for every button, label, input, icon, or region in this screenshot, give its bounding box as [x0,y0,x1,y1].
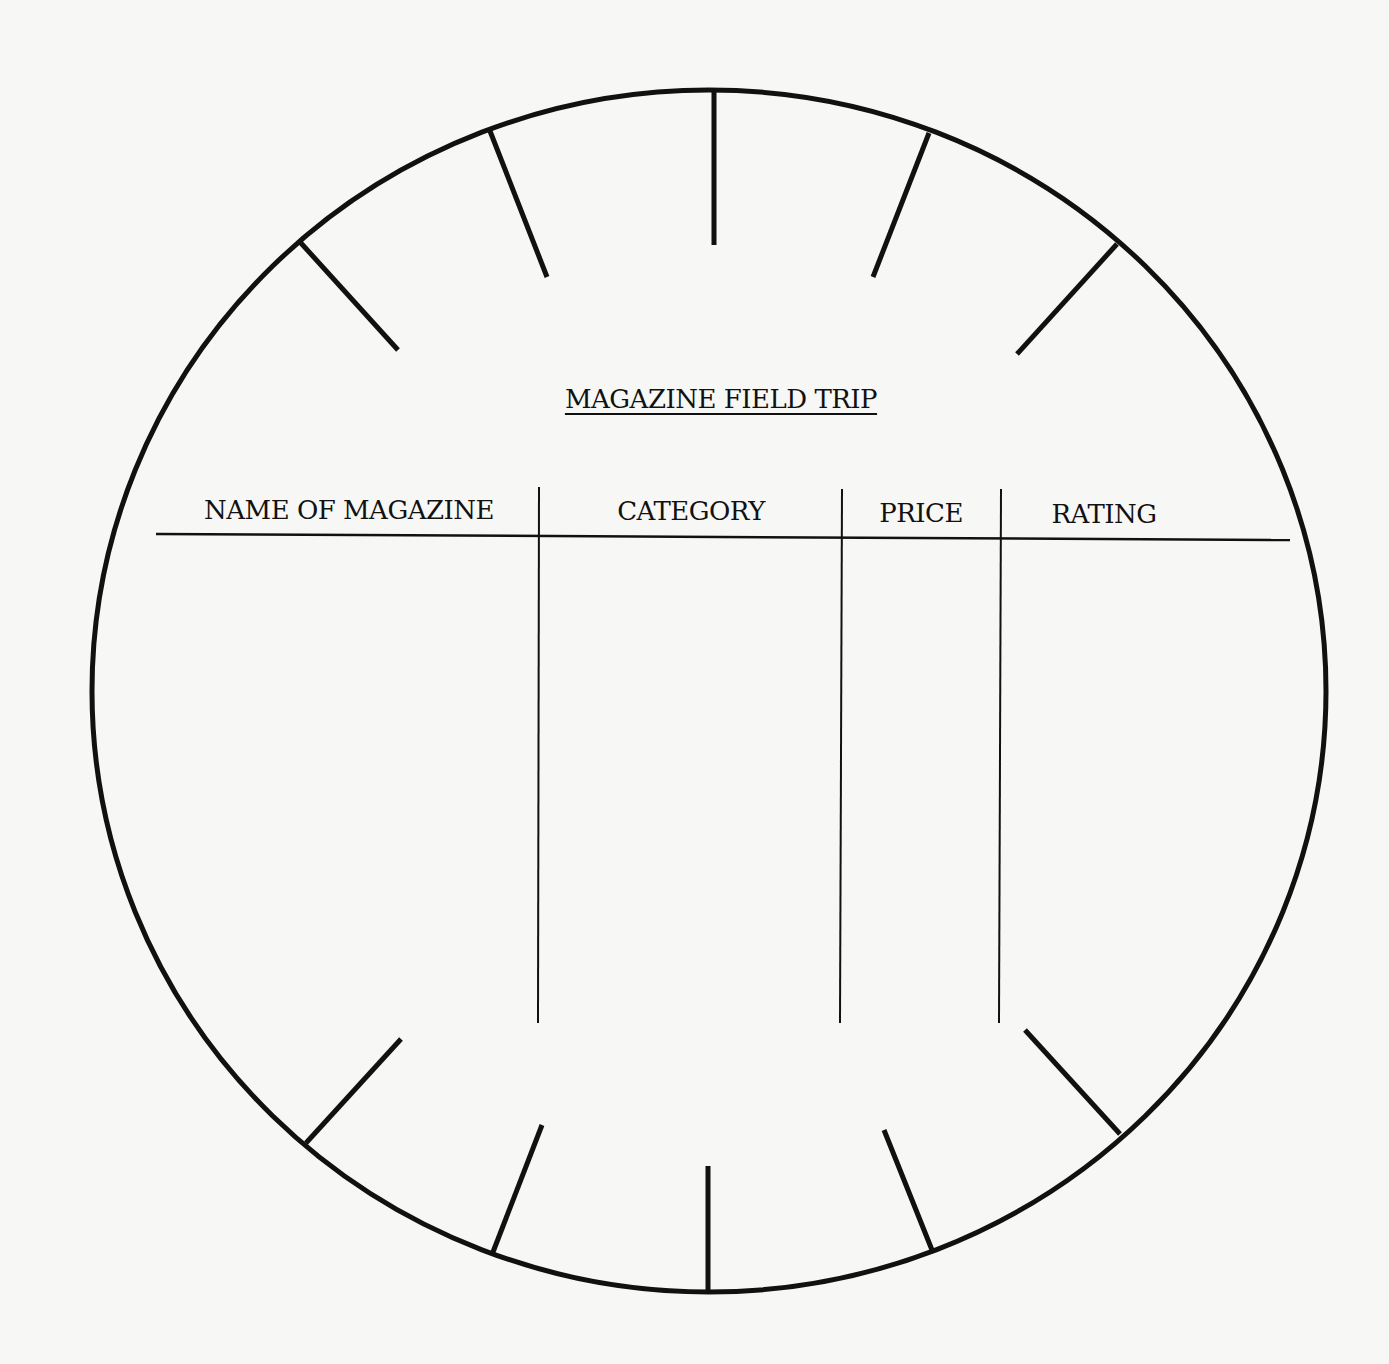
worksheet-title: MAGAZINE FIELD TRIP [565,384,877,414]
table-header-rule [156,534,1290,540]
top-tick-marks [300,92,1117,354]
column-header-name-of-magazine: NAME OF MAGAZINE [204,495,494,525]
rating-column-area[interactable] [1004,545,1284,1023]
column-header-rating: RATING [1051,499,1156,529]
bottom-tick-marks [306,1030,1120,1292]
column-header-price: PRICE [879,498,963,528]
column-header-category: CATEGORY [617,496,765,526]
price-column-area[interactable] [845,542,996,1022]
category-column-area[interactable] [542,542,837,1022]
name-of-magazine-column-area[interactable] [160,542,535,1022]
